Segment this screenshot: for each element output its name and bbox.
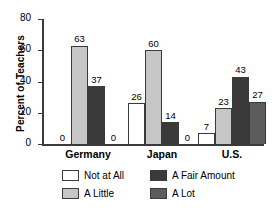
y-tick-60: 60 — [38, 50, 42, 51]
legend-row: Not at AllA Fair Amount — [62, 166, 267, 184]
x-axis-group-label: Japan — [128, 148, 196, 160]
bar-group-germany: 063370Germany — [54, 19, 122, 144]
bars: 063370 — [54, 19, 122, 144]
y-tick-40: 40 — [38, 82, 42, 83]
bar[interactable] — [232, 77, 249, 144]
legend-label: A Fair Amount — [172, 170, 235, 181]
bar-value-label: 0 — [60, 133, 65, 143]
bar-value-label: 26 — [131, 92, 142, 102]
y-axis-line — [42, 19, 44, 144]
legend-swatch-icon — [62, 188, 79, 199]
legend-swatch-icon — [150, 188, 167, 199]
bar-value-label: 23 — [218, 97, 229, 107]
bar-value-label: 7 — [204, 122, 209, 132]
y-tick-label: 20 — [20, 106, 31, 117]
bar[interactable] — [145, 50, 162, 144]
bar-slot: 0 — [54, 19, 71, 144]
y-tick-label: 40 — [20, 75, 31, 86]
legend-label: A Little — [84, 188, 114, 199]
bar-slot: 26 — [128, 19, 145, 144]
legend-label: Not at All — [84, 170, 124, 181]
legend-item[interactable]: A Lot — [150, 188, 195, 199]
bar-group-u-s: 7234327U.S. — [198, 19, 266, 144]
bar-slot: 14 — [162, 19, 179, 144]
x-axis-group-label: Germany — [54, 148, 122, 160]
bar[interactable] — [249, 102, 266, 144]
bar[interactable] — [198, 133, 215, 144]
x-axis-line — [42, 144, 264, 146]
bar-slot: 60 — [145, 19, 162, 144]
y-tick-label: 60 — [20, 43, 31, 54]
bar-slot: 43 — [232, 19, 249, 144]
bar-value-label: 60 — [148, 39, 159, 49]
bar[interactable] — [162, 122, 179, 144]
bar[interactable] — [88, 86, 105, 144]
chart-legend: Not at AllA Fair AmountA LittleA Lot — [62, 166, 267, 202]
legend-swatch-icon — [62, 170, 79, 181]
legend-item[interactable]: Not at All — [62, 170, 150, 181]
bar-value-label: 27 — [252, 90, 263, 100]
bar-value-label: 37 — [91, 75, 102, 85]
bar-value-label: 0 — [111, 133, 116, 143]
legend-item[interactable]: A Little — [62, 188, 150, 199]
bars: 2660140 — [128, 19, 196, 144]
bar[interactable] — [128, 103, 145, 144]
bar-slot: 27 — [249, 19, 266, 144]
bar-slot: 0 — [105, 19, 122, 144]
x-axis-group-label: U.S. — [198, 148, 266, 160]
legend-item[interactable]: A Fair Amount — [150, 170, 235, 181]
bar-value-label: 14 — [165, 111, 176, 121]
bar-value-label: 63 — [74, 34, 85, 44]
bar-value-label: 43 — [235, 65, 246, 75]
bar[interactable] — [215, 108, 232, 144]
y-tick-0: 0 — [38, 144, 42, 145]
legend-swatch-icon — [150, 170, 167, 181]
bar[interactable] — [71, 46, 88, 144]
legend-label: A Lot — [172, 188, 195, 199]
y-tick-80: 80 — [38, 19, 42, 20]
bar-chart: Percent of Teachers 806040200 063370Germ… — [0, 0, 274, 215]
bars: 7234327 — [198, 19, 266, 144]
y-tick-label: 80 — [20, 12, 31, 23]
bar-slot: 63 — [71, 19, 88, 144]
legend-row: A LittleA Lot — [62, 184, 267, 202]
bar-slot: 0 — [179, 19, 196, 144]
y-tick-20: 20 — [38, 113, 42, 114]
bar-value-label: 0 — [185, 133, 190, 143]
y-tick-label: 0 — [25, 137, 31, 148]
bar-slot: 7 — [198, 19, 215, 144]
bar-slot: 37 — [88, 19, 105, 144]
plot-area: 806040200 063370Germany2660140Japan72343… — [42, 19, 264, 144]
bar-group-japan: 2660140Japan — [128, 19, 196, 144]
bar-slot: 23 — [215, 19, 232, 144]
